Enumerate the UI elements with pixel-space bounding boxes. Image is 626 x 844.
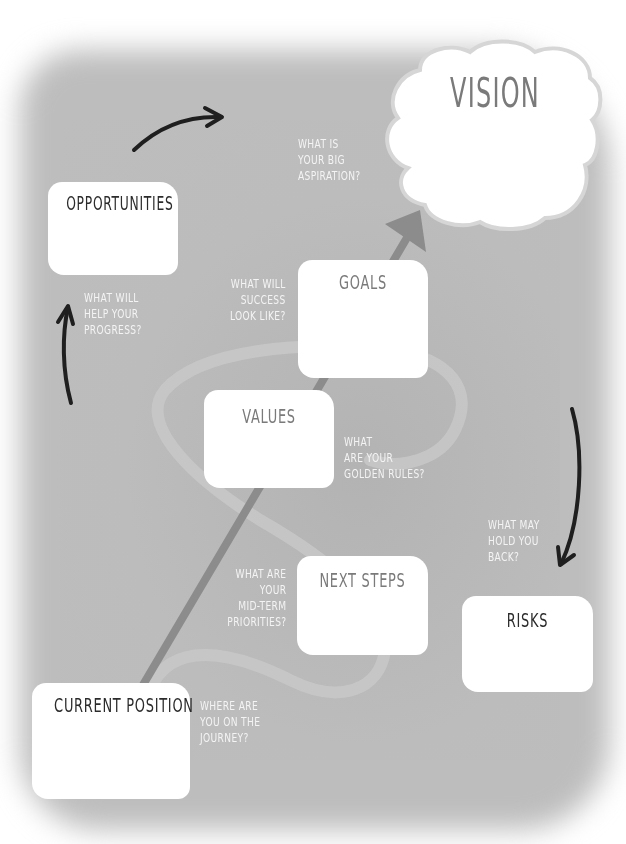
vision-title: VISION bbox=[450, 70, 540, 116]
curved-arrow-right-icon bbox=[134, 108, 222, 150]
values-box[interactable]: VALUES bbox=[204, 390, 334, 488]
curved-arrow-up-icon bbox=[58, 306, 73, 403]
curved-arrow-down-icon bbox=[558, 409, 579, 565]
next-steps-title: NEXT STEPS bbox=[315, 568, 409, 592]
opportunities-question: WHAT WILL HELP YOUR PROGRESS? bbox=[84, 290, 142, 338]
next-steps-box[interactable]: NEXT STEPS bbox=[297, 556, 428, 655]
goals-question: WHAT WILL SUCCESS LOOK LIKE? bbox=[230, 276, 286, 324]
risks-question: WHAT MAY HOLD YOU BACK? bbox=[488, 517, 540, 565]
current-position-question: WHERE ARE YOU ON THE JOURNEY? bbox=[200, 698, 260, 746]
values-title: VALUES bbox=[222, 404, 316, 428]
values-question: WHAT ARE YOUR GOLDEN RULES? bbox=[344, 434, 425, 482]
goals-box[interactable]: GOALS bbox=[298, 260, 428, 378]
risks-title: RISKS bbox=[480, 608, 574, 632]
opportunities-title: OPPORTUNITIES bbox=[66, 192, 160, 214]
current-position-box[interactable]: CURRENT POSITION bbox=[32, 683, 190, 799]
risks-box[interactable]: RISKS bbox=[462, 596, 593, 692]
next-steps-question: WHAT ARE YOUR MID-TERM PRIORITIES? bbox=[227, 566, 286, 630]
current-position-title: CURRENT POSITION bbox=[54, 693, 168, 717]
opportunities-box[interactable]: OPPORTUNITIES bbox=[48, 182, 178, 275]
vision-question: WHAT IS YOUR BIG ASPIRATION? bbox=[298, 136, 361, 184]
goals-title: GOALS bbox=[316, 270, 410, 294]
